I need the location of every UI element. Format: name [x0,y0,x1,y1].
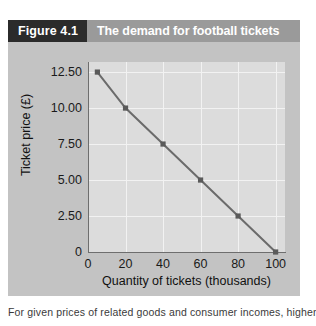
figure-caption: For given prices of related goods and co… [8,306,303,318]
y-tick-label: 2.50 [8,209,82,223]
x-tick-label: 40 [156,257,170,271]
demand-curve [88,62,285,252]
data-point-marker [123,105,128,110]
x-axis-line [88,252,286,253]
figure-header-bar: Figure 4.1 The demand for football ticke… [8,20,300,42]
data-point-marker [198,177,203,182]
data-point-marker [273,249,278,254]
figure-title: The demand for football tickets [87,20,279,42]
x-tick-label: 60 [194,257,208,271]
x-axis-title: Quantity of tickets (thousands) [88,274,285,288]
chart-canvas: 02.505.007.5010.0012.50 Ticket price (£)… [8,42,300,296]
data-point-marker [235,213,240,218]
x-tick-label: 80 [231,257,245,271]
figure-number-label: Figure 4.1 [8,20,87,42]
y-axis-title: Ticket price (£) [19,70,33,200]
y-tick-label: 0 [8,245,82,259]
figure-page: Figure 4.1 The demand for football ticke… [0,0,316,326]
series-line-demand [97,72,275,252]
x-tick-label: 20 [119,257,133,271]
data-point-marker [95,69,100,74]
x-tick-label: 100 [265,257,286,271]
figure-container: Figure 4.1 The demand for football ticke… [8,20,300,296]
x-tick-label: 0 [85,257,92,271]
data-point-marker [160,141,165,146]
